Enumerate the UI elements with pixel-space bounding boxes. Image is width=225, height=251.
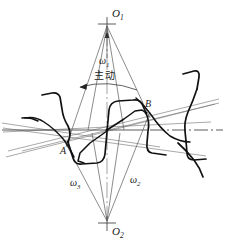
contact-point-b-dot (145, 112, 147, 114)
label-omega-2: ω2 (130, 175, 140, 188)
label-point-a: A (60, 146, 66, 156)
label-omega-2-base: ω (130, 174, 137, 185)
o2-to-contact-b (107, 112, 150, 221)
gear-mesh-diagram: O1 ω1 主动 A B ω3 ω2 O2 (0, 0, 225, 251)
tooth-right-lower-path (146, 113, 166, 155)
omega1-arc-path (80, 84, 137, 90)
o2-inner-left (92, 133, 107, 221)
label-center-bottom-base: O (112, 225, 120, 237)
diagram-canvas (0, 0, 225, 251)
label-omega-3: ω3 (70, 178, 80, 191)
omega1-rotation-arc (80, 84, 138, 91)
pitch-point-dot (106, 129, 108, 131)
label-omega-2-sub: 2 (137, 180, 140, 187)
tooth-profile-right-lower (146, 113, 166, 155)
tooth-profile-center-right (107, 110, 146, 130)
tooth-left-lower-path (68, 132, 107, 164)
tooth-profile-left-upper (42, 93, 70, 142)
label-center-top-sub: 1 (120, 13, 124, 22)
construction-line-5 (2, 123, 160, 147)
o2-inner-right (107, 133, 120, 221)
label-center-bottom: O2 (112, 226, 124, 240)
tooth-far-right-upper (183, 71, 199, 89)
tooth-center-right-path (107, 110, 146, 130)
tooth-profile-left-lower (68, 132, 107, 164)
tooth-far-right-flank (185, 89, 197, 141)
label-omega-1-base: ω (99, 55, 106, 66)
tooth-profile-far-right (178, 71, 206, 177)
label-center-top: O1 (112, 8, 124, 22)
tooth-left-upper-path (42, 93, 70, 142)
label-driving: 主动 (94, 67, 115, 82)
label-center-top-base: O (112, 7, 120, 19)
label-omega-3-sub: 3 (77, 183, 80, 190)
label-point-b: B (145, 99, 151, 109)
contact-point-a-dot (67, 141, 69, 143)
tooth-far-right-lower (186, 141, 206, 160)
label-omega-3-base: ω (70, 177, 77, 188)
label-center-bottom-sub: 2 (120, 231, 124, 240)
